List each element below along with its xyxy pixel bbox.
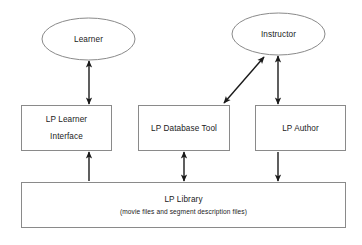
lp-learner-interface-box: [22, 106, 112, 151]
components-layer: LP Learner Interface LP Database Tool LP…: [22, 106, 346, 151]
node-lp-database-tool[interactable]: LP Database Tool: [139, 106, 230, 151]
node-lp-library[interactable]: LP Library (movie files and segment desc…: [22, 183, 346, 228]
lp-library-sublabel: (movie files and segment description fil…: [120, 208, 247, 216]
instructor-label: Instructor: [261, 30, 296, 39]
lp-database-tool-label: LP Database Tool: [151, 124, 217, 133]
lp-library-box: [22, 183, 346, 228]
architecture-diagram: Learner Instructor LP Learner Interface …: [0, 0, 362, 245]
diagram-canvas: Learner Instructor LP Learner Interface …: [0, 0, 362, 245]
node-instructor[interactable]: Instructor: [232, 13, 325, 55]
lp-learner-interface-label-line1: LP Learner: [46, 115, 88, 124]
actors-layer: Learner Instructor: [42, 13, 325, 60]
connector-instructor-to-database-tool: [224, 57, 264, 103]
lp-learner-interface-label-line2: Interface: [50, 132, 83, 141]
lp-library-label: LP Library: [164, 195, 203, 204]
node-learner[interactable]: Learner: [42, 18, 135, 60]
node-lp-learner-interface[interactable]: LP Learner Interface: [22, 106, 112, 151]
node-lp-author[interactable]: LP Author: [256, 106, 346, 151]
learner-label: Learner: [74, 35, 103, 44]
lp-author-label: LP Author: [282, 124, 319, 133]
